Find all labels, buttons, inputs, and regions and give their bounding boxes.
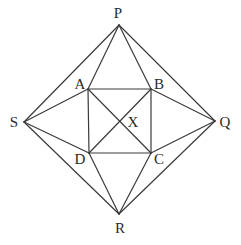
label-S: S	[10, 114, 18, 130]
segment-QC	[151, 121, 215, 153]
label-Q: Q	[220, 114, 231, 130]
label-C: C	[154, 151, 164, 167]
geometry-figure: P Q R S A B C D X	[0, 0, 241, 245]
label-B: B	[154, 76, 164, 92]
label-P: P	[114, 5, 122, 21]
label-A: A	[75, 76, 86, 92]
label-R: R	[115, 220, 125, 236]
segment-SP	[24, 25, 119, 122]
segment-PB	[119, 25, 151, 89]
segment-RS	[24, 122, 119, 214]
segment-RD	[89, 153, 119, 214]
segment-PA	[88, 25, 119, 89]
segment-SA	[24, 89, 88, 122]
segment-RC	[119, 153, 151, 214]
segment-SD	[24, 122, 89, 153]
label-X: X	[128, 114, 139, 130]
edges	[24, 25, 215, 214]
label-D: D	[75, 151, 86, 167]
segment-DA	[88, 89, 89, 153]
segment-QB	[151, 89, 215, 121]
